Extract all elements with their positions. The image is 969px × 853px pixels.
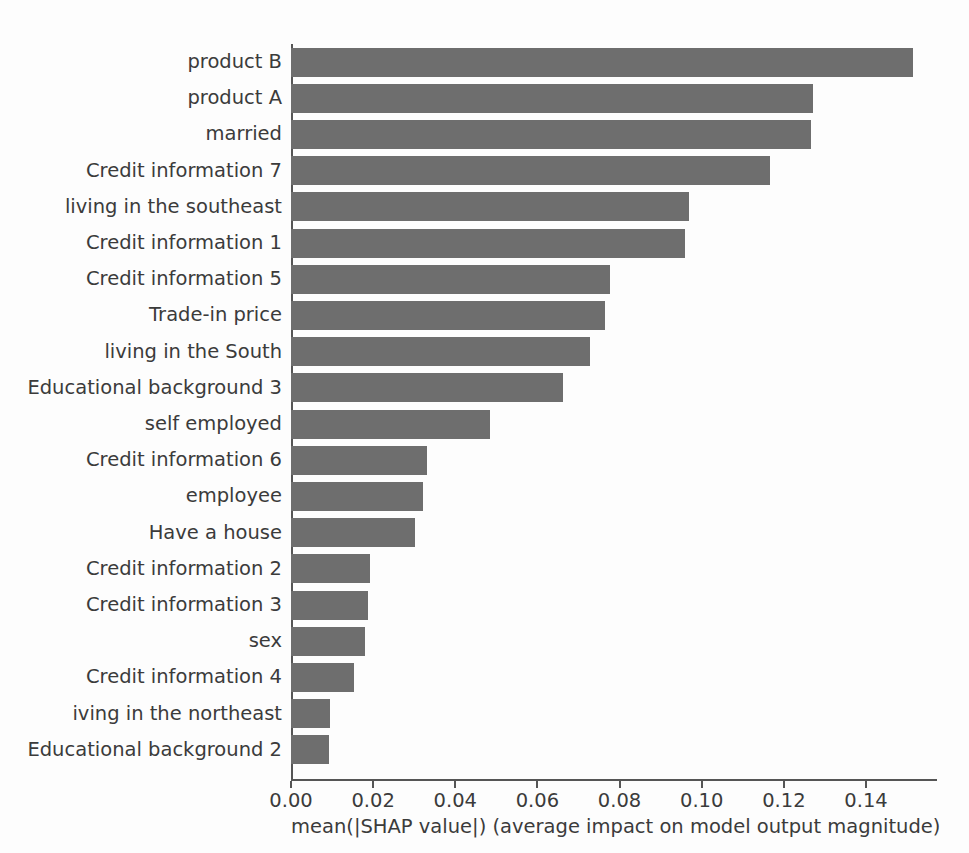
- y-axis-tick-label: Educational background 2: [27, 735, 282, 764]
- x-tick-label: 0.00: [269, 789, 312, 812]
- plot-area: product Bproduct AmarriedCredit informat…: [291, 44, 866, 780]
- shap-summary-figure: product Bproduct AmarriedCredit informat…: [0, 0, 969, 853]
- x-tick-label: 0.02: [351, 789, 394, 812]
- bar: [291, 156, 770, 185]
- y-axis-tick-label: employee: [186, 481, 282, 510]
- y-axis-tick-label: Credit information 6: [86, 445, 282, 474]
- y-axis-tick-label: iving in the northeast: [72, 699, 282, 728]
- bar: [291, 699, 330, 728]
- bar: [291, 301, 605, 330]
- x-tick-label: 0.06: [516, 789, 559, 812]
- x-tick-label: 0.04: [434, 789, 477, 812]
- y-axis-tick-label: product B: [187, 47, 282, 76]
- bar-row: Educational background 3: [291, 370, 866, 406]
- y-axis-tick-label: Educational background 3: [27, 373, 282, 402]
- bar-row: Trade-in price: [291, 297, 866, 333]
- bar-row: product A: [291, 80, 866, 116]
- y-axis-tick-label: Have a house: [149, 518, 282, 547]
- bar-row: iving in the northeast: [291, 696, 866, 732]
- y-axis-tick-label: Credit information 5: [86, 264, 282, 293]
- bar: [291, 229, 685, 258]
- bar: [291, 446, 427, 475]
- x-tick-mark: [454, 781, 456, 788]
- x-tick-mark: [865, 781, 867, 788]
- y-axis-tick-label: Credit information 2: [86, 554, 282, 583]
- bar: [291, 735, 329, 764]
- y-axis-tick-label: self employed: [145, 409, 282, 438]
- bar: [291, 48, 913, 77]
- bar-row: employee: [291, 478, 866, 514]
- bar-row: Credit information 6: [291, 442, 866, 478]
- bar: [291, 84, 813, 113]
- x-tick-mark: [619, 781, 621, 788]
- bar-row: living in the South: [291, 334, 866, 370]
- bar-row: self employed: [291, 406, 866, 442]
- x-tick-mark: [290, 781, 292, 788]
- x-tick-mark: [372, 781, 374, 788]
- bar-row: Credit information 7: [291, 153, 866, 189]
- x-tick-mark: [536, 781, 538, 788]
- y-axis-tick-label: Credit information 1: [86, 228, 282, 257]
- bar: [291, 627, 365, 656]
- bar: [291, 265, 610, 294]
- bar: [291, 192, 689, 221]
- bar: [291, 373, 563, 402]
- bar: [291, 410, 490, 439]
- bar-row: living in the southeast: [291, 189, 866, 225]
- bar-row: product B: [291, 44, 866, 80]
- bar-row: Educational background 2: [291, 732, 866, 768]
- bar: [291, 120, 811, 149]
- bar-row: Credit information 4: [291, 659, 866, 695]
- y-axis-tick-label: living in the southeast: [65, 192, 282, 221]
- x-tick-label: 0.08: [598, 789, 641, 812]
- bar: [291, 337, 590, 366]
- bar: [291, 518, 415, 547]
- y-axis-tick-label: Credit information 4: [86, 662, 282, 691]
- bar-row: Credit information 2: [291, 551, 866, 587]
- bar-row: sex: [291, 623, 866, 659]
- x-tick-mark: [701, 781, 703, 788]
- y-axis-tick-label: product A: [187, 83, 282, 112]
- y-axis-tick-label: living in the South: [104, 337, 282, 366]
- bar-row: Credit information 3: [291, 587, 866, 623]
- y-axis-tick-label: Credit information 3: [86, 590, 282, 619]
- y-axis-tick-label: Trade-in price: [149, 300, 282, 329]
- x-tick-mark: [783, 781, 785, 788]
- x-tick-label: 0.14: [844, 789, 887, 812]
- x-axis-label: mean(|SHAP value|) (average impact on mo…: [291, 815, 937, 838]
- x-tick-label: 0.12: [762, 789, 805, 812]
- bar: [291, 554, 370, 583]
- y-axis-tick-label: Credit information 7: [86, 156, 282, 185]
- bar: [291, 482, 423, 511]
- bar-row: Credit information 1: [291, 225, 866, 261]
- bar-row: married: [291, 116, 866, 152]
- y-axis-tick-label: married: [206, 119, 282, 148]
- bar: [291, 591, 368, 620]
- bar: [291, 663, 354, 692]
- y-axis-tick-label: sex: [249, 626, 282, 655]
- bar-row: Credit information 5: [291, 261, 866, 297]
- x-tick-label: 0.10: [680, 789, 723, 812]
- bar-row: Have a house: [291, 515, 866, 551]
